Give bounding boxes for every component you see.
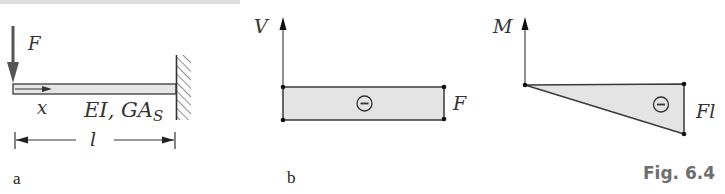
force-arrow-icon bbox=[7, 26, 19, 83]
node-dot bbox=[442, 85, 447, 90]
coordinate-label: x bbox=[37, 97, 47, 118]
v-axis-label: V bbox=[254, 15, 270, 37]
clipped-text-fragment bbox=[0, 0, 240, 4]
moment-value-label: Fl bbox=[695, 100, 715, 122]
panel-c: M Fl bbox=[492, 15, 715, 136]
node-dot bbox=[523, 83, 528, 88]
panel-a: F x EI, GAS l a bbox=[7, 26, 191, 188]
panel-b-label: b bbox=[287, 168, 296, 187]
node-dot bbox=[442, 117, 447, 122]
node-dot bbox=[281, 85, 286, 90]
v-axis-arrow-icon bbox=[280, 17, 287, 30]
node-dot bbox=[682, 132, 687, 137]
figure-canvas: F x EI, GAS l a V bbox=[0, 0, 725, 194]
bending-moment-area bbox=[525, 84, 684, 134]
stiffness-label: EI, GAS bbox=[83, 98, 163, 125]
force-label: F bbox=[27, 33, 42, 54]
figure-caption: Fig. 6.4 bbox=[643, 163, 715, 183]
node-dot bbox=[281, 118, 286, 123]
fixed-support-icon bbox=[177, 55, 192, 120]
node-dot bbox=[682, 82, 687, 87]
m-axis-label: M bbox=[492, 15, 513, 37]
panel-a-label: a bbox=[13, 169, 21, 188]
m-axis-arrow-icon bbox=[522, 17, 529, 30]
shear-value-label: F bbox=[452, 92, 467, 114]
panel-b: V F b bbox=[254, 15, 467, 187]
length-label: l bbox=[90, 128, 96, 150]
